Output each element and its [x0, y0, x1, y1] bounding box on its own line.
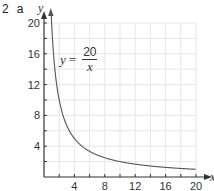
chart: 4812162048121620 y x [0, 0, 214, 191]
equation-denominator: x [87, 60, 93, 73]
y-tick-label: 4 [34, 140, 40, 152]
equation-lhs: y [60, 52, 66, 68]
y-axis-label: y [37, 1, 44, 15]
x-tick-label: 8 [102, 180, 108, 191]
y-tick-label: 8 [34, 109, 40, 121]
y-tick-label: 20 [28, 17, 40, 29]
curve-arrow-icon [48, 8, 54, 16]
equation-equals: = [69, 52, 76, 68]
ticks: 4812162048121620 [28, 17, 202, 191]
y-tick-label: 16 [28, 48, 40, 60]
x-tick-label: 4 [71, 180, 77, 191]
axes [41, 11, 212, 180]
equation-numerator: 20 [82, 46, 97, 60]
equation-label: y = 20 x [60, 46, 97, 73]
x-tick-label: 16 [159, 180, 171, 191]
equation-fraction: 20 x [82, 46, 97, 73]
x-tick-label: 12 [129, 180, 141, 191]
x-axis-label: x [209, 170, 214, 184]
x-tick-label: 20 [190, 180, 202, 191]
y-tick-label: 12 [28, 79, 40, 91]
